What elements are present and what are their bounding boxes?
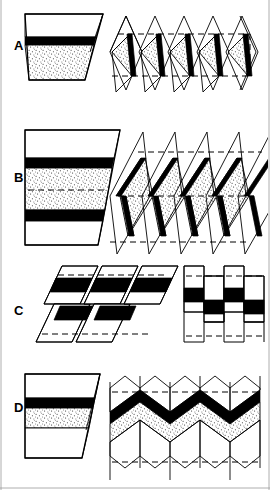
bed-black-d: [25, 398, 95, 408]
bed-black-upper-b: [25, 158, 114, 168]
bed-white-upper-d: [25, 374, 100, 398]
panel-label-a: A: [14, 38, 24, 53]
box-fold-1: [184, 266, 204, 312]
bed-white-upper-b: [25, 130, 120, 158]
bed-stipple-b: [25, 168, 112, 210]
box-fold-3: [224, 266, 244, 312]
bed-white-lower-b: [25, 221, 103, 245]
bed-stipple-d: [25, 408, 93, 428]
box-fold-2: [204, 276, 224, 322]
fold-classification-figure: A: [0, 0, 270, 490]
bed-white-upper-a: [25, 14, 103, 37]
panel-label-b: B: [14, 170, 23, 185]
bed-black-a: [25, 37, 96, 45]
panel-label-c: C: [14, 303, 24, 318]
panel-label-d: D: [14, 400, 23, 415]
box-fold-4: [244, 276, 264, 322]
bed-white-lower-d: [25, 428, 89, 458]
bed-black-lower-b: [25, 210, 105, 221]
bed-stipple-a: [25, 45, 94, 80]
figure-canvas: A: [0, 0, 270, 490]
